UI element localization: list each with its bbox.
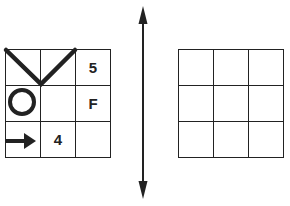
right-cell-0-1 [214, 50, 249, 86]
right-cell-1-1 [214, 86, 249, 122]
right-cell-0-2 [249, 50, 284, 86]
left-cell-1-1 [41, 86, 76, 122]
right-grid [178, 49, 284, 158]
right-cell-1-2 [249, 86, 284, 122]
left-cell-0-0 [6, 50, 41, 86]
left-cell-0-2: 5 [76, 50, 111, 86]
right-cell-2-1 [214, 122, 249, 158]
left-cell-2-2 [76, 122, 111, 158]
right-cell-2-2 [249, 122, 284, 158]
left-cell-1-0 [6, 86, 41, 122]
left-cell-1-2: F [76, 86, 111, 122]
left-cell-2-0 [6, 122, 41, 158]
left-cell-0-1 [41, 50, 76, 86]
right-cell-1-0 [179, 86, 214, 122]
right-cell-2-0 [179, 122, 214, 158]
left-grid: 5 F 4 [5, 49, 111, 158]
left-cell-2-1: 4 [41, 122, 76, 158]
right-cell-0-0 [179, 50, 214, 86]
double-headed-vertical-arrow-icon [139, 6, 148, 199]
